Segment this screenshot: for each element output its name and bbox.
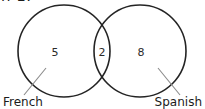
french-set-label: French (3, 95, 43, 109)
french-only-value: 5 (52, 46, 59, 59)
venn-diagram-figure: 5 2 8 French Spanish (0, 0, 205, 109)
venn-diagram-screenshot: n 1. 5 2 8 French Spanish (0, 0, 205, 109)
intersection-value: 2 (99, 46, 106, 59)
spanish-set-label: Spanish (155, 95, 202, 109)
french-set-circle (18, 5, 110, 97)
spanish-only-value: 8 (138, 46, 145, 59)
